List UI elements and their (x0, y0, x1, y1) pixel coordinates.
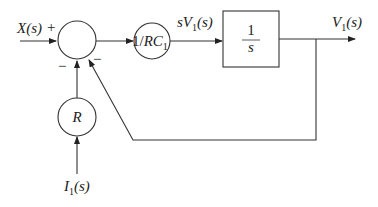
input-i1-label: I1(s) (63, 178, 90, 197)
r-gain-label: R (71, 109, 81, 125)
block-diagram: X(s) + − − 1/RC1 sV1(s) 1 s V1(s) R I1(s… (0, 0, 378, 207)
input-x-label: X(s) (16, 20, 42, 37)
summing-junction (58, 21, 96, 59)
output-v1-label: V1(s) (332, 14, 362, 33)
integrator-numerator: 1 (247, 22, 255, 38)
integrator-denominator: s (248, 39, 254, 55)
plus-sign: + (47, 19, 55, 35)
minus-sign-feedback: − (93, 51, 101, 67)
gain-rc-label: 1/RC1 (132, 33, 168, 52)
signal-sv1-label: sV1(s) (177, 14, 213, 33)
feedback-path (89, 39, 316, 140)
minus-sign-r: − (58, 58, 66, 74)
